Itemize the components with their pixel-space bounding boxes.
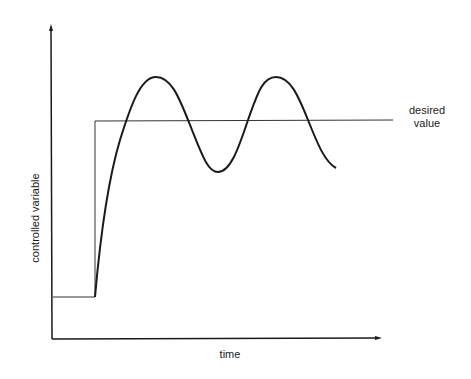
desired-label-line1: desired	[402, 104, 452, 117]
desired-label-line2: value	[402, 117, 452, 130]
x-axis	[52, 338, 378, 339]
desired-value-step-line	[53, 120, 393, 297]
control-response-diagram	[0, 0, 471, 379]
y-axis-arrow-icon	[49, 24, 53, 31]
desired-value-label: desired value	[402, 104, 452, 130]
x-axis-label: time	[200, 348, 260, 360]
y-axis-label: controlled variable	[29, 153, 41, 283]
controlled-variable-curve	[95, 77, 336, 297]
y-axis	[51, 28, 52, 339]
x-axis-arrow-icon	[375, 336, 382, 340]
